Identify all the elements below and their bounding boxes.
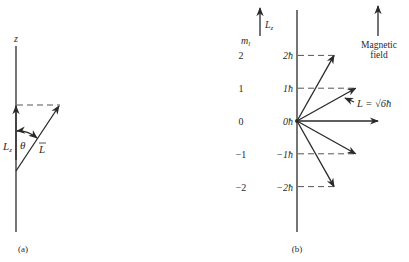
lz-header-label: Lz bbox=[264, 19, 274, 32]
magnetic-field-label-line2: field bbox=[370, 50, 388, 60]
ml-value-label: 0 bbox=[239, 116, 244, 127]
panel-a: z θ Lz L (a) bbox=[2, 33, 60, 254]
ml-value-label: −1 bbox=[236, 149, 247, 160]
theta-label: θ bbox=[20, 139, 26, 151]
quantization-levels: 22ħ11ħ00ħ−1−1ħ−2−2ħ bbox=[236, 50, 378, 192]
lz-value-label: 1ħ bbox=[283, 83, 293, 94]
lz-value-label: 2ħ bbox=[283, 50, 293, 61]
origin-point bbox=[295, 119, 299, 123]
ml-value-label: 1 bbox=[239, 83, 244, 94]
magnitude-label: L = √6ħ bbox=[356, 98, 391, 109]
lz-label: Lz bbox=[2, 140, 12, 154]
l-vector-label: L bbox=[38, 143, 45, 155]
magnitude-pointer-arrow bbox=[345, 98, 354, 102]
ml-header-label: ml bbox=[241, 35, 250, 48]
ml-value-label: −2 bbox=[236, 182, 247, 193]
ml-value-label: 2 bbox=[239, 50, 244, 61]
lz-value-label: −2ħ bbox=[276, 182, 293, 193]
diagram-canvas: z θ Lz L (a) Lz ml Magnetic field 22ħ11ħ… bbox=[0, 0, 409, 262]
lz-value-label: −1ħ bbox=[276, 149, 293, 160]
panel-b: Lz ml Magnetic field 22ħ11ħ00ħ−1−1ħ−2−2ħ… bbox=[236, 6, 397, 254]
z-axis-label: z bbox=[13, 33, 18, 44]
theta-angle-arc bbox=[17, 131, 37, 138]
caption-b: (b) bbox=[292, 244, 303, 254]
lz-value-label: 0ħ bbox=[283, 116, 293, 127]
caption-a: (a) bbox=[18, 244, 28, 254]
magnetic-field-label-line1: Magnetic bbox=[361, 40, 397, 50]
